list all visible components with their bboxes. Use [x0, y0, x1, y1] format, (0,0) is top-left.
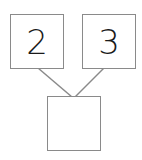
part-value-left: 2: [26, 25, 48, 59]
connector-right: [75, 68, 104, 97]
part-value-right: 3: [98, 25, 120, 59]
connector-left: [38, 68, 72, 97]
part-box-right: 3: [82, 14, 136, 69]
part-box-left: 2: [10, 14, 64, 69]
whole-box[interactable]: [47, 96, 101, 151]
